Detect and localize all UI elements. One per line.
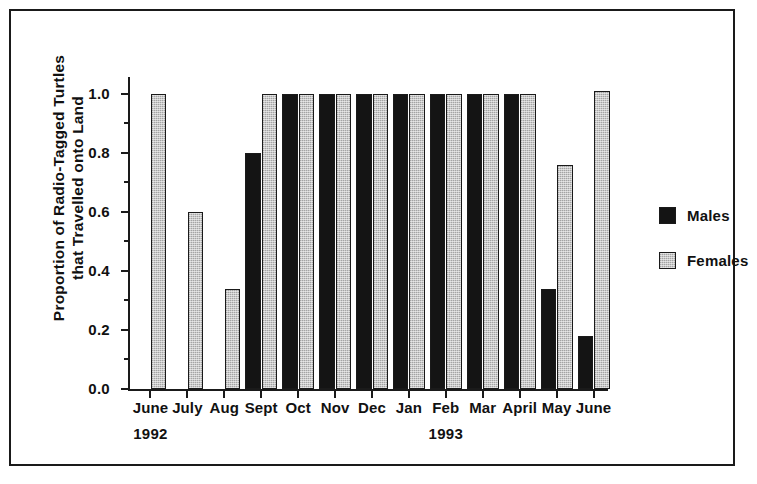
- x-tick-label-jan-1993: Jan: [396, 399, 422, 416]
- y-axis-title-line-1: Proportion of Radio-Tagged Turtles: [49, 23, 68, 353]
- year-label-1992: 1992: [133, 425, 168, 442]
- legend-label-females: Females: [687, 252, 748, 269]
- y-tick-minor: [124, 358, 128, 360]
- bar-females-sept-1992: [262, 94, 278, 389]
- y-axis-title-line-2: that Travelled onto Land: [68, 23, 87, 353]
- x-tick: [445, 391, 447, 398]
- x-tick-label-june-1993: June: [576, 399, 611, 416]
- y-tick-minor: [124, 240, 128, 242]
- x-axis-tick-labels: JuneJulyAugSeptOctNovDecJanFebMarAprilMa…: [128, 399, 608, 421]
- x-tick-label-june-1992: June: [133, 399, 168, 416]
- legend: Males Females: [659, 207, 748, 297]
- x-tick-label-oct-1992: Oct: [285, 399, 310, 416]
- x-tick: [260, 391, 262, 398]
- y-tick-major: 0.6: [121, 211, 128, 213]
- x-tick: [556, 391, 558, 398]
- figure-border: Proportion of Radio-Tagged Turtles that …: [9, 9, 735, 466]
- x-tick: [408, 391, 410, 398]
- y-tick-label: 0.6: [88, 202, 110, 219]
- bar-males-oct-1992: [282, 94, 298, 389]
- y-tick-major: 0.8: [121, 152, 128, 154]
- x-tick-label-may-1993: May: [542, 399, 571, 416]
- bar-females-oct-1992: [299, 94, 315, 389]
- x-tick: [223, 391, 225, 398]
- x-tick-label-nov-1992: Nov: [321, 399, 350, 416]
- x-tick: [186, 391, 188, 398]
- bar-females-nov-1992: [336, 94, 352, 389]
- x-tick: [593, 391, 595, 398]
- y-tick-label: 0.2: [88, 320, 110, 337]
- y-tick-major: 0.2: [121, 329, 128, 331]
- y-tick-major: 0.0: [121, 388, 128, 390]
- x-axis-line: [128, 389, 608, 391]
- y-tick-minor: [124, 181, 128, 183]
- x-tick-label-dec-1992: Dec: [358, 399, 386, 416]
- bar-females-feb-1993: [446, 94, 462, 389]
- x-tick-label-april-1993: April: [502, 399, 537, 416]
- x-tick: [149, 391, 151, 398]
- bar-males-mar-1993: [467, 94, 483, 389]
- y-tick-major: 1.0: [121, 93, 128, 95]
- y-tick-label: 0.0: [88, 380, 110, 397]
- bar-males-nov-1992: [319, 94, 335, 389]
- bar-females-april-1993: [520, 94, 536, 389]
- bar-males-june-1993: [578, 336, 594, 389]
- x-tick-label-aug-1992: Aug: [210, 399, 239, 416]
- bar-males-sept-1992: [245, 153, 261, 389]
- y-axis-line: [128, 77, 130, 391]
- legend-item-males: Males: [659, 207, 748, 224]
- x-tick: [519, 391, 521, 398]
- legend-item-females: Females: [659, 252, 748, 269]
- bar-females-may-1993: [557, 165, 573, 389]
- x-tick: [371, 391, 373, 398]
- x-tick-label-july-1992: July: [172, 399, 202, 416]
- bar-males-jan-1993: [393, 94, 409, 389]
- bar-males-may-1993: [541, 289, 557, 389]
- y-tick-minor: [124, 122, 128, 124]
- legend-label-males: Males: [687, 207, 730, 224]
- figure-canvas: Proportion of Radio-Tagged Turtles that …: [0, 0, 757, 484]
- bar-females-june-1993: [594, 91, 610, 389]
- bar-males-feb-1993: [430, 94, 446, 389]
- x-tick: [297, 391, 299, 398]
- legend-swatch-females-icon: [659, 252, 676, 269]
- x-tick-label-sept-1992: Sept: [245, 399, 278, 416]
- y-axis-title: Proportion of Radio-Tagged Turtles that …: [49, 23, 87, 353]
- bar-females-dec-1992: [373, 94, 389, 389]
- bar-females-july-1992: [188, 212, 204, 389]
- bar-females-mar-1993: [483, 94, 499, 389]
- bar-females-aug-1992: [225, 289, 241, 389]
- x-tick: [334, 391, 336, 398]
- x-tick-label-feb-1993: Feb: [432, 399, 459, 416]
- bar-males-april-1993: [504, 94, 520, 389]
- x-tick: [482, 391, 484, 398]
- x-tick-label-mar-1993: Mar: [469, 399, 496, 416]
- y-tick-label: 1.0: [88, 84, 110, 101]
- bar-females-jan-1993: [409, 94, 425, 389]
- plot-area: 0.00.20.40.60.81.0: [128, 77, 608, 391]
- y-tick-label: 0.4: [88, 261, 110, 278]
- year-label-1993: 1993: [429, 425, 464, 442]
- bar-females-june-1992: [151, 94, 167, 389]
- y-tick-major: 0.4: [121, 270, 128, 272]
- bar-males-dec-1992: [356, 94, 372, 389]
- y-tick-label: 0.8: [88, 143, 110, 160]
- y-tick-minor: [124, 299, 128, 301]
- legend-swatch-males-icon: [659, 207, 676, 224]
